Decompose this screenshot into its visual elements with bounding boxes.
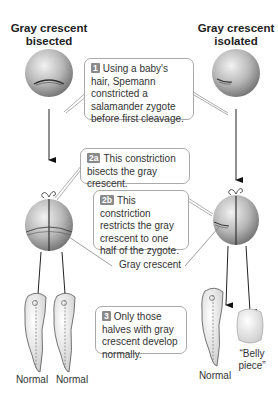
step-badge: 2a xyxy=(87,153,100,163)
normal-embryo-1-icon xyxy=(25,293,46,372)
callout-step-2b: 2bThis constriction restricts the gray c… xyxy=(93,190,189,250)
callout-step-3: 3Only those halves with gray crescent de… xyxy=(95,306,187,354)
left-constricted-zygote-icon xyxy=(25,192,73,251)
outcome-label-belly-piece: “Belly piece” xyxy=(236,348,268,372)
right-zygote-icon xyxy=(212,49,260,97)
outcome-label-3: Normal xyxy=(193,370,237,382)
normal-embryo-2-icon xyxy=(54,293,75,372)
callout-step-2a: 2aThis constriction bisects the gray cre… xyxy=(80,148,190,184)
step-badge: 1 xyxy=(91,63,100,73)
step-badge: 3 xyxy=(102,311,111,321)
step-badge: 2b xyxy=(100,195,114,205)
normal-embryo-3-icon xyxy=(202,288,223,366)
outcome-label-1: Normal xyxy=(10,374,54,386)
left-zygote-icon xyxy=(25,49,73,97)
gray-crescent-label: Gray crescent xyxy=(110,259,190,271)
callout-step-1: 1Using a baby's hair, Spemann constricte… xyxy=(84,58,194,120)
outcome-label-2: Normal xyxy=(50,374,94,386)
left-column-title: Gray crescent bisected xyxy=(3,22,95,48)
right-constricted-zygote-icon xyxy=(213,189,259,245)
belly-piece-icon xyxy=(237,309,263,343)
right-column-title: Gray crescent isolated xyxy=(190,22,278,48)
